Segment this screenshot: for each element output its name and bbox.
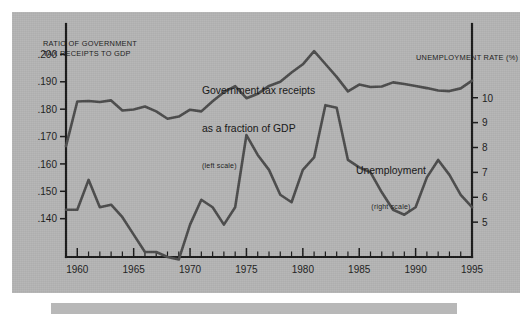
chart-figure: RATIO OF GOVERNMENT TAX RECEIPTS TO GDP … bbox=[0, 0, 532, 314]
left-axis-tick-label: .180 bbox=[38, 104, 58, 115]
right-axis-tick-label: 5 bbox=[482, 217, 488, 228]
annotation-unemployment-scale-note: (right scale) bbox=[356, 203, 426, 212]
right-axis-tick-label: 7 bbox=[482, 167, 488, 178]
chart-panel: RATIO OF GOVERNMENT TAX RECEIPTS TO GDP … bbox=[12, 12, 520, 293]
x-axis-tick-label: 1990 bbox=[404, 264, 427, 275]
left-axis-tick-label: .190 bbox=[38, 76, 58, 87]
x-axis-tick-label: 1985 bbox=[348, 264, 371, 275]
right-axis-tick-label: 10 bbox=[482, 93, 494, 104]
x-axis-tick-label: 1970 bbox=[179, 264, 202, 275]
x-axis-tick-label: 1965 bbox=[123, 264, 146, 275]
right-axis-tick-label: 6 bbox=[482, 192, 488, 203]
x-axis-tick-label: 1995 bbox=[461, 264, 484, 275]
x-axis-tick-label: 1975 bbox=[235, 264, 258, 275]
annotation-tax-line2: as a fraction of GDP bbox=[202, 123, 315, 136]
annotation-unemployment-label: Unemployment bbox=[356, 165, 426, 178]
annotation-tax-scale-note: (left scale) bbox=[202, 162, 315, 171]
annotation-tax-receipts: Government tax receipts as a fraction of… bbox=[202, 60, 315, 195]
left-axis-tick-label: .200 bbox=[38, 49, 58, 60]
x-axis-tick-label: 1980 bbox=[292, 264, 315, 275]
left-axis-tick-label: .170 bbox=[38, 131, 58, 142]
left-axis-tick-label: .140 bbox=[38, 213, 58, 224]
annotation-tax-line1: Government tax receipts bbox=[202, 85, 315, 98]
x-axis-tick-label: 1960 bbox=[66, 264, 89, 275]
caption-strip bbox=[51, 303, 457, 314]
right-axis-tick-label: 8 bbox=[482, 142, 488, 153]
left-axis-tick-label: .160 bbox=[38, 159, 58, 170]
right-axis-tick-label: 9 bbox=[482, 117, 488, 128]
left-axis-tick-label: .150 bbox=[38, 186, 58, 197]
annotation-unemployment: Unemployment (right scale) bbox=[356, 140, 426, 237]
